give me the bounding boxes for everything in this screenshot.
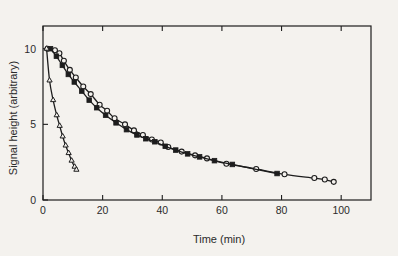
data-point-circle [123,122,128,127]
x-axis-title: Time (min) [193,233,245,245]
data-point-square [124,127,129,132]
x-tick-label: 80 [276,204,288,216]
x-tick-label: 20 [97,204,109,216]
data-point-square [72,80,77,85]
data-point-square [103,113,108,118]
data-point-square [163,144,168,149]
data-point-circle [61,58,66,63]
data-point-circle [81,84,86,89]
data-point-square [275,171,280,176]
data-point-square [212,158,217,163]
x-tick-label: 0 [40,204,46,216]
data-point-square [185,152,190,157]
data-point-square [197,155,202,160]
decay-curve-figure: 0204060801000510 Time (min) Signal heigh… [0,0,398,256]
data-point-circle [88,92,93,97]
x-tick-label: 100 [332,204,350,216]
data-point-circle [67,67,72,72]
data-point-circle [322,177,327,182]
data-point-square [60,63,65,68]
y-tick-label: 5 [30,118,36,130]
data-point-circle [73,75,78,80]
y-tick-label: 0 [30,194,36,206]
x-tick-label: 40 [156,204,168,216]
y-axis-title: Signal height (arbitrary) [7,61,19,175]
data-point-square [114,121,119,126]
y-tick-label: 10 [24,43,36,55]
data-point-circle [282,172,287,177]
data-point-square [79,89,84,94]
data-point-square [153,139,158,144]
data-point-square [94,105,99,110]
x-tick-label: 60 [216,204,228,216]
data-point-circle [312,176,317,181]
data-point-square [173,148,178,153]
data-point-square [54,54,59,59]
data-point-square [135,133,140,138]
data-point-circle [105,108,110,113]
data-point-square [66,72,71,77]
data-point-square [87,98,92,103]
data-point-circle [331,179,336,184]
data-point-square [144,136,149,141]
data-point-square [230,162,235,167]
